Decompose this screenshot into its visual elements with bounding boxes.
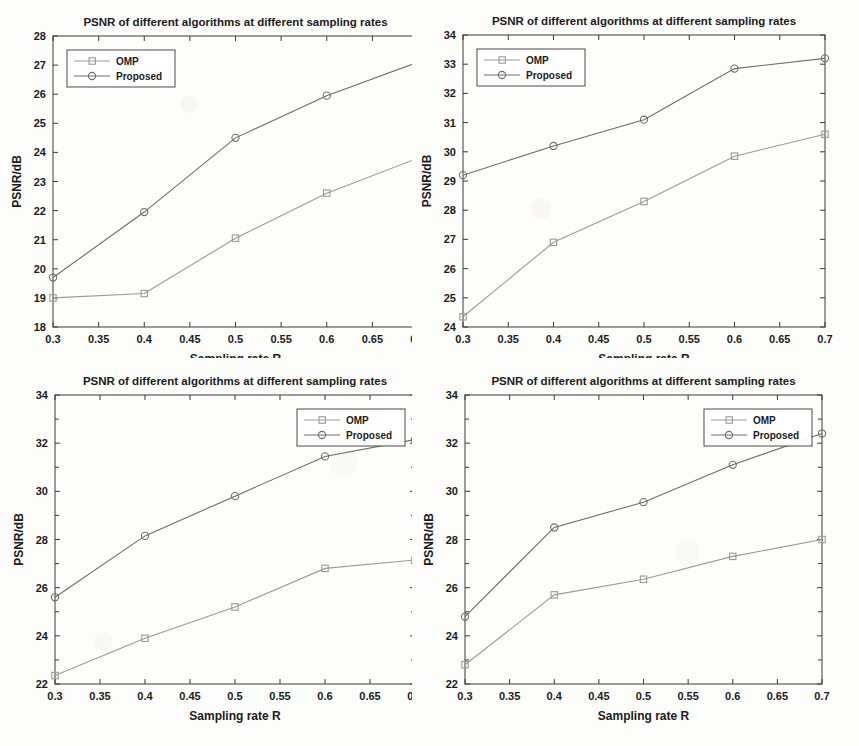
x-tick-label: 0.3 [47,690,62,702]
panel-top-right-svg: PSNR of different algorithms at differen… [412,0,859,358]
x-tick-label: 0.4 [137,333,153,345]
x-tick-label: 0.4 [137,690,153,702]
x-tick-label: 0.65 [359,690,380,702]
x-tick-label: 0.6 [317,690,332,702]
x-tick-label: 0.55 [677,690,698,702]
legend-label-omp: OMP [116,56,139,67]
x-tick-label: 0.55 [270,333,291,345]
x-tick-label: 0.5 [636,333,651,345]
series-line-omp [55,560,412,676]
y-tick-label: 24 [34,146,47,158]
x-tick-label: 0.45 [179,690,200,702]
chart-title: PSNR of different algorithms at differen… [83,375,387,387]
y-axis-label: PSNR/dB [422,513,436,566]
x-tick-label: 0.55 [679,333,700,345]
series-line-proposed [465,434,822,617]
x-tick-label: 0.65 [769,333,790,345]
y-tick-label: 19 [34,292,46,304]
legend[interactable]: OMPProposed [297,409,405,446]
legend-label-omp: OMP [526,55,549,66]
legend-label-omp: OMP [753,415,776,426]
chart-panel-top-left: PSNR of different algorithms at differen… [0,0,412,358]
x-tick-label: 0.45 [179,333,200,345]
chart-title: PSNR of different algorithms at differen… [491,375,795,387]
x-tick-label: 0.4 [546,333,562,345]
y-tick-label: 25 [444,292,456,304]
panel-top-left-svg: PSNR of different algorithms at differen… [0,0,412,358]
y-tick-label: 33 [444,58,456,70]
series-line-omp [53,158,412,298]
x-axis-label: Sampling rate R [598,709,690,723]
legend[interactable]: OMPProposed [67,50,175,87]
y-tick-label: 24 [36,630,49,642]
series-line-omp [463,134,825,317]
x-tick-label: 0.5 [227,690,242,702]
y-tick-label: 21 [34,234,46,246]
y-tick-label: 29 [444,175,456,187]
y-tick-label: 34 [446,389,459,401]
legend-label-proposed: Proposed [116,71,162,82]
y-tick-label: 26 [446,582,458,594]
legend[interactable]: OMPProposed [704,409,812,446]
series-line-proposed [53,62,412,277]
y-tick-label: 31 [444,117,456,129]
x-tick-label: 0.6 [727,333,742,345]
legend-label-proposed: Proposed [526,70,572,81]
x-tick-label: 0.6 [725,690,740,702]
x-tick-label: 0.65 [362,333,383,345]
y-tick-label: 34 [36,389,49,401]
legend-label-omp: OMP [346,415,369,426]
y-tick-label: 28 [446,534,458,546]
y-tick-label: 22 [34,205,46,217]
x-axis-label: Sampling rate R [189,709,281,723]
x-tick-label: 0.3 [45,333,60,345]
x-tick-label: 0.6 [319,333,334,345]
chart-panel-top-right: PSNR of different algorithms at differen… [412,0,859,358]
panel-bottom-left-svg: PSNR of different algorithms at differen… [0,358,412,746]
x-tick-label: 0.3 [455,333,470,345]
chart-title: PSNR of different algorithms at differen… [492,15,796,27]
chart-panel-bottom-right: PSNR of different algorithms at differen… [412,358,859,746]
y-tick-label: 18 [34,321,46,333]
y-tick-label: 32 [444,87,456,99]
series-line-omp [465,540,822,665]
legend[interactable]: OMPProposed [477,49,585,86]
x-tick-label: 0.35 [88,333,109,345]
x-tick-label: 0.35 [89,690,110,702]
y-tick-label: 27 [34,59,46,71]
x-tick-label: 0.5 [636,690,651,702]
x-tick-label: 0.4 [547,690,563,702]
y-axis-label: PSNR/dB [12,513,26,566]
x-tick-label: 0.45 [588,690,609,702]
y-tick-label: 22 [36,678,48,690]
x-tick-label: 0.35 [499,690,520,702]
y-tick-label: 32 [446,437,458,449]
y-tick-label: 26 [36,582,48,594]
legend-label-proposed: Proposed [753,430,799,441]
x-tick-label: 0.5 [228,333,243,345]
y-tick-label: 30 [446,485,458,497]
x-tick-label: 0.35 [498,333,519,345]
y-tick-label: 34 [444,29,457,41]
y-tick-label: 24 [446,630,459,642]
y-tick-label: 28 [36,534,48,546]
x-tick-label: 0.65 [767,690,788,702]
chart-title: PSNR of different algorithms at differen… [83,16,387,28]
x-tick-label: 0.3 [457,690,472,702]
y-tick-label: 28 [34,30,46,42]
series-line-proposed [55,440,412,598]
y-tick-label: 30 [444,146,456,158]
y-tick-label: 22 [446,678,458,690]
chart-panel-bottom-left: PSNR of different algorithms at differen… [0,358,412,746]
y-tick-label: 28 [444,204,456,216]
y-tick-label: 25 [34,117,46,129]
y-tick-label: 27 [444,233,456,245]
legend-label-proposed: Proposed [346,430,392,441]
y-axis-label: PSNR/dB [10,155,24,208]
y-tick-label: 23 [34,176,46,188]
y-tick-label: 26 [34,88,46,100]
figure-four-psnr-charts: PSNR of different algorithms at differen… [0,0,859,746]
x-tick-label: 0.45 [588,333,609,345]
x-tick-label: 0.7 [814,690,829,702]
x-tick-label: 0.55 [269,690,290,702]
